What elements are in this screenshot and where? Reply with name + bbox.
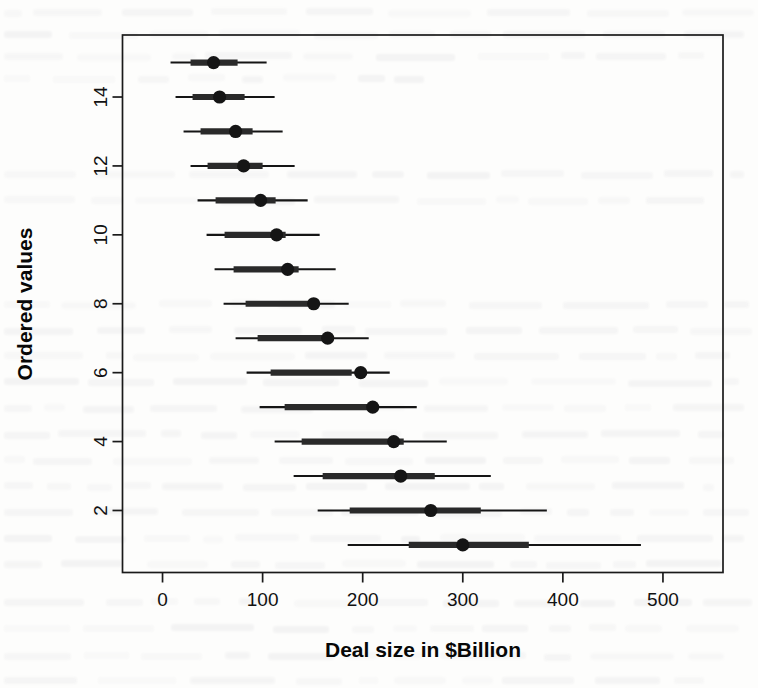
interval-row-12 [191,159,295,172]
interval-row-15 [171,56,267,69]
x-tick-label-100: 100 [247,589,279,610]
point-estimate [387,435,400,448]
point-estimate [254,194,267,207]
point-estimate [366,401,379,414]
interval-row-8 [224,297,349,310]
interval-row-5 [260,401,417,414]
interval-row-2 [318,504,547,517]
point-estimate [270,228,283,241]
point-estimate [394,469,407,482]
chart-figure: 0100200300400500 2468101214 Deal size in… [0,0,758,688]
point-estimate [229,125,242,138]
interval-row-1 [348,538,641,551]
interval-row-6 [247,366,390,379]
point-estimate [213,90,226,103]
interval-row-9 [215,263,336,276]
interval-row-10 [207,228,320,241]
x-tick-label-500: 500 [647,589,679,610]
x-tick-label-400: 400 [547,589,579,610]
y-tick-label-8: 8 [90,298,111,309]
interval-row-14 [176,90,275,103]
interval-row-11 [198,194,308,207]
x-axis-title: Deal size in $Billion [325,638,521,661]
y-axis: 2468101214 [90,86,123,516]
y-tick-label-2: 2 [90,505,111,516]
x-axis: 0100200300400500 [157,573,679,610]
interval-row-7 [236,332,369,345]
point-estimate [281,263,294,276]
data-series-layer [171,56,641,552]
x-tick-label-300: 300 [447,589,479,610]
interval-row-3 [294,469,491,482]
point-estimate [424,504,437,517]
y-tick-label-12: 12 [90,155,111,176]
x-tick-label-0: 0 [157,589,168,610]
point-estimate [237,159,250,172]
y-axis-title: Ordered values [13,228,36,381]
point-estimate [354,366,367,379]
y-tick-label-4: 4 [90,436,111,447]
y-tick-label-10: 10 [90,224,111,245]
y-tick-label-14: 14 [90,86,111,108]
point-estimate [207,56,220,69]
y-tick-label-6: 6 [90,367,111,378]
point-estimate [456,538,469,551]
interval-row-4 [275,435,447,448]
point-estimate [321,332,334,345]
x-tick-label-200: 200 [347,589,379,610]
interval-row-13 [184,125,283,138]
plot-box [123,35,724,573]
caterpillar-plot-svg: 0100200300400500 2468101214 Deal size in… [0,0,758,688]
point-estimate [307,297,320,310]
